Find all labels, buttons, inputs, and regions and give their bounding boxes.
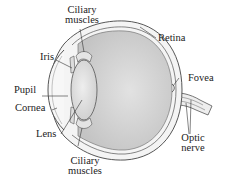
label-cornea: Cornea	[15, 103, 45, 113]
label-ciliary-top-line2: muscles	[63, 15, 101, 25]
label-ciliary-muscles-bottom: Ciliary muscles	[66, 156, 104, 176]
label-lens: Lens	[36, 129, 56, 139]
label-ciliary-muscles-top: Ciliary muscles	[63, 5, 101, 25]
label-iris: Iris	[40, 52, 54, 62]
label-optic-line2: nerve	[179, 143, 207, 153]
label-pupil: Pupil	[14, 85, 36, 95]
label-fovea: Fovea	[188, 73, 214, 83]
cornea	[48, 50, 64, 130]
label-optic-nerve: Optic nerve	[179, 133, 207, 153]
label-ciliary-bottom-line2: muscles	[66, 166, 104, 176]
label-retina: Retina	[158, 33, 185, 43]
eye-diagram: Ciliary muscles Retina Iris Pupil Fovea …	[0, 0, 225, 187]
